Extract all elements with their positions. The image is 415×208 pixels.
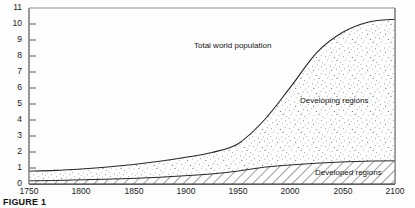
x-tick-label-2100: 2100: [380, 187, 410, 196]
y-tick-label-4: 4: [6, 115, 22, 124]
y-tick-label-10: 10: [6, 19, 22, 28]
y-tick-label-3: 3: [6, 131, 22, 140]
label-developed-regions: Developed regions: [315, 168, 382, 177]
x-tick-label-1900: 1900: [171, 187, 201, 196]
x-tick-label-2000: 2000: [275, 187, 305, 196]
x-tick-label-2050: 2050: [328, 187, 358, 196]
figure-caption: FIGURE 1: [3, 197, 46, 207]
x-tick-label-1850: 1850: [119, 187, 149, 196]
x-tick-label-1950: 1950: [223, 187, 253, 196]
x-tick-label-1750: 1750: [14, 187, 44, 196]
y-tick-label-6: 6: [6, 83, 22, 92]
label-total-world-population: Total world population: [194, 41, 271, 50]
y-tick-label-9: 9: [6, 35, 22, 44]
label-developing-regions: Developing regions: [300, 96, 369, 105]
y-tick-label-11: 11: [6, 3, 22, 12]
population-figure: 11 10 9 8 7 6 5 4 3 2 1 0 1750 1800 1850…: [0, 0, 415, 208]
y-tick-label-8: 8: [6, 51, 22, 60]
y-axis-ticks: [29, 24, 36, 168]
y-tick-label-7: 7: [6, 67, 22, 76]
x-tick-label-1800: 1800: [66, 187, 96, 196]
y-tick-label-1: 1: [6, 163, 22, 172]
y-tick-label-5: 5: [6, 99, 22, 108]
y-tick-label-2: 2: [6, 147, 22, 156]
